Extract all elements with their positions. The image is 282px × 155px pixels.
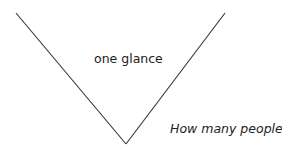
left-line: [16, 13, 126, 144]
center-label: one glance: [94, 51, 163, 66]
question-label: How many people?: [170, 121, 282, 136]
